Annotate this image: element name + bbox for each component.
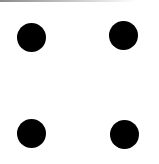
- pip-top-right-icon: [109, 21, 138, 50]
- pip-bottom-left-icon: [17, 119, 46, 148]
- pip-top-left-icon: [17, 23, 46, 52]
- pip-bottom-right-icon: [110, 120, 139, 149]
- top-edge-shadow: [0, 0, 136, 2]
